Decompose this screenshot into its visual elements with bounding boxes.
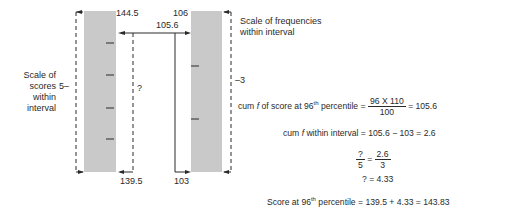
equation-cum-f-percentile: cum f of score at 96th percentile = 96 X… [238,96,437,117]
arrow-icon [118,170,124,174]
left-top-label: 144.5 [116,8,139,19]
equation-unknown-value: ? = 4.33 [362,174,393,184]
equation-cum-f-within: cum f within interval = 105.6 − 103 = 2.… [283,128,436,138]
left-bottom-label: 139.5 [120,176,143,187]
right-top-label: 106 [173,8,188,19]
frequencies-interval-bar [191,11,222,172]
unknown-label: ? [137,83,142,94]
right-bottom-label: 103 [174,176,189,187]
scores-scale-label: Scale of scores within interval [10,70,56,114]
score-scale-value: 5– [59,81,69,92]
arrow-icon [78,170,84,174]
equation-proportion: ?5 = 2.63 [356,149,391,170]
arrow-icon [185,170,191,174]
connector-label: 105.6 [156,20,179,31]
arrow-icon [223,170,229,174]
arrow-icon [185,31,191,35]
frequencies-scale-label: Scale of frequencies within interval [240,16,322,38]
frequency-scale-value: –3 [235,75,245,86]
equation-score-result: Score at 96th percentile = 139.5 + 4.33 … [267,197,450,207]
arrow-icon [76,10,82,14]
arrow-icon [223,10,229,14]
arrow-icon [118,31,125,35]
scores-interval-bar [84,11,116,172]
